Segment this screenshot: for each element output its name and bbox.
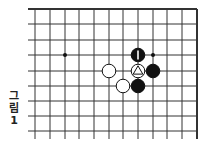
white-stone-icon — [102, 64, 116, 78]
white-stone-icon — [116, 79, 130, 93]
white-stone — [131, 64, 145, 78]
black-stone — [131, 48, 145, 62]
white-stone — [102, 64, 116, 78]
star-point — [63, 53, 67, 57]
black-stone — [131, 79, 145, 93]
go-board-diagram — [0, 0, 209, 153]
black-stone-icon — [146, 64, 160, 78]
figure-caption: 그 림 1 — [6, 91, 22, 127]
caption-char-3: 1 — [6, 115, 22, 127]
black-stone — [146, 64, 160, 78]
star-point — [151, 53, 155, 57]
black-stone-icon — [131, 79, 145, 93]
white-stone — [116, 79, 130, 93]
